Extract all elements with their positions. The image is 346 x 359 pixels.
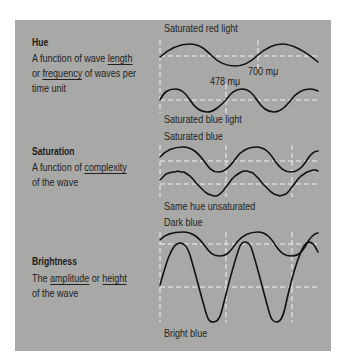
blue-wave [160, 89, 318, 112]
saturated-blue-wave [160, 147, 318, 172]
dashed-guides [160, 40, 318, 322]
unsaturated-wave [160, 170, 318, 196]
bright-blue-wave [160, 242, 318, 322]
wave-diagram [0, 0, 346, 359]
red-wave [160, 44, 318, 66]
